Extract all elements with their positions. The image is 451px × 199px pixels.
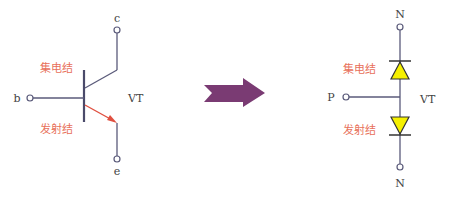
device-label: VT	[127, 92, 144, 105]
emitter-arrow-icon	[107, 115, 117, 123]
emitter-terminal	[114, 156, 120, 162]
base-terminal	[27, 95, 33, 101]
collector-label: c	[114, 12, 120, 25]
emitter-junction-label-right: 发射结	[343, 123, 376, 137]
emitter-label: e	[114, 165, 121, 178]
collector-junction-label: 集电结	[40, 61, 73, 75]
p-label: P	[327, 91, 335, 104]
transistor-symbol: c b e 集电结 发射结 VT	[13, 12, 143, 178]
collector-junction-label-right: 集电结	[343, 62, 376, 76]
emitter-diode-icon	[391, 117, 409, 134]
bottom-n-terminal	[397, 164, 403, 170]
bottom-n-label: N	[395, 177, 405, 190]
diode-model: N P N 集电结 发射结 VT	[327, 8, 436, 190]
emitter-junction-label: 发射结	[40, 122, 73, 136]
top-n-terminal	[397, 24, 403, 30]
collector-diode-icon	[391, 62, 409, 79]
p-terminal	[343, 94, 349, 100]
collector-terminal	[114, 27, 120, 33]
diagram-canvas: c b e 集电结 发射结 VT N P	[0, 0, 451, 199]
device-label-right: VT	[419, 93, 436, 106]
collector-diagonal	[85, 70, 117, 88]
right-arrow-icon	[204, 78, 265, 107]
base-label: b	[13, 92, 20, 105]
top-n-label: N	[395, 8, 405, 21]
